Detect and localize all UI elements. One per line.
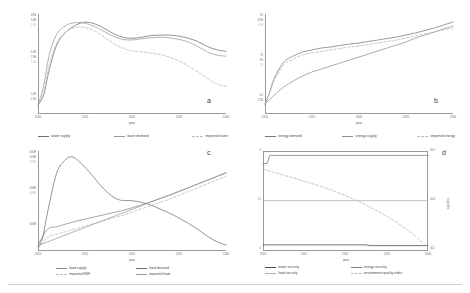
panel-c-xtick-2: 2020	[124, 253, 140, 256]
figure-canvas: 3.6B 3.0B 2.4B 2.4B 2.3B 1.1B 2.2B 2.1B …	[0, 0, 470, 293]
panel-b-legend-item-2[interactable]: imported energy	[417, 134, 455, 138]
panel-a: 3.6B 3.0B 2.4B 2.4B 2.3B 1.1B 2.2B 2.1B …	[8, 9, 235, 146]
panel-b-legend-label-2: imported energy	[430, 134, 455, 138]
panel-a-series-0	[38, 22, 226, 105]
line-swatch-icon	[265, 273, 276, 274]
panel-b: 90 8.5B 8.0B 70 60 50 5.0 2.5B 2010 2015…	[235, 9, 462, 146]
panel-d-xaxis-label: year	[328, 259, 364, 262]
panel-a-xtick-1: 2015	[77, 116, 93, 119]
panel-b-xtick-2: 2020	[351, 116, 367, 119]
panel-d: 5 2.5 0 40.5 40.4 40.2 eqindex 2010 2015…	[235, 146, 462, 284]
panel-d-legend: water security energy security food secu…	[265, 265, 455, 275]
panel-c-legend-item-0[interactable]: food supply	[56, 266, 136, 270]
panel-c-xtick-0: 2010	[30, 253, 46, 256]
panel-c-xtick-1: 2015	[77, 253, 93, 256]
line-swatch-icon	[38, 136, 49, 137]
panel-b-xtick-4: 2030	[445, 116, 461, 119]
panel-a-legend-label-2: imported water	[206, 134, 228, 138]
panel-d-legend-label-2: food security	[278, 271, 297, 275]
panel-d-xtick-2: 2020	[337, 253, 353, 256]
panel-d-legend-label-0: water security	[278, 265, 299, 269]
panel-a-legend-item-0[interactable]: water supply	[38, 134, 70, 138]
panel-d-xtick-3: 2025	[379, 253, 395, 256]
panel-d-legend-label-1: energy security	[364, 265, 387, 269]
line-swatch-icon	[56, 268, 67, 269]
panel-a-label: a	[207, 97, 211, 104]
dashed-line-swatch-icon	[192, 136, 203, 137]
panel-b-xtick-0: 2010	[257, 116, 273, 119]
panel-b-legend-item-0[interactable]: energy demand	[265, 134, 302, 138]
panel-a-legend-label-1: water demand	[127, 134, 149, 138]
panel-c-xaxis-label: year	[114, 259, 150, 262]
panel-a-legend-label-0: water supply	[51, 134, 70, 138]
panel-d-legend-item-3[interactable]: environment quality index	[351, 271, 456, 275]
panel-c-legend: food supply food demand imported NSF imp…	[56, 266, 216, 276]
panel-d-legend-item-0[interactable]: water security	[265, 265, 351, 269]
line-swatch-icon	[265, 136, 276, 137]
panel-b-legend-label-0: energy demand	[278, 134, 302, 138]
panel-d-legend-item-2[interactable]: food security	[265, 271, 351, 275]
panel-a-legend-item-1[interactable]: water demand	[114, 134, 149, 138]
panel-a-curves	[8, 9, 235, 146]
line-swatch-icon	[136, 274, 147, 275]
line-swatch-icon	[342, 136, 353, 137]
line-swatch-icon	[265, 267, 276, 268]
panel-b-series-1	[265, 26, 453, 104]
panel-d-xtick-1: 2015	[296, 253, 312, 256]
panel-c-legend-item-2[interactable]: imported NSF	[56, 272, 136, 276]
panel-c-series-3	[38, 173, 226, 245]
panel-a-legend-item-2[interactable]: imported water	[192, 134, 228, 138]
panel-c-curves	[8, 146, 235, 284]
dashed-line-swatch-icon	[417, 136, 428, 137]
line-swatch-icon	[351, 267, 362, 268]
panel-c-legend-label-0: food supply	[69, 266, 86, 270]
panel-b-series-2	[265, 28, 453, 104]
panel-c-series-2	[38, 176, 226, 248]
panel-a-xtick-3: 2025	[171, 116, 187, 119]
panel-b-legend-label-1: energy supply	[356, 134, 377, 138]
panel-c-legend-label-1: food demand	[149, 266, 169, 270]
line-swatch-icon	[136, 268, 147, 269]
panel-c-series-1	[38, 157, 226, 248]
panel-b-legend: energy demand energy supply imported ene…	[265, 134, 455, 138]
panel-a-xtick-2: 2020	[124, 116, 140, 119]
figure-bottom-rule	[8, 284, 462, 285]
panel-d-curves	[235, 146, 462, 284]
panel-d-series-3	[263, 169, 428, 247]
panel-c-legend-item-1[interactable]: food demand	[136, 266, 216, 270]
panel-d-label: d	[442, 149, 446, 156]
panel-a-series-1	[38, 22, 226, 105]
panel-b-xaxis-label: year	[341, 122, 377, 125]
panel-b-legend-item-1[interactable]: energy supply	[342, 134, 376, 138]
panel-c-xtick-3: 2025	[171, 253, 187, 256]
panel-c-legend-label-3: imported food	[149, 272, 170, 276]
dashed-line-swatch-icon	[56, 274, 67, 275]
panel-a-xaxis-label: year	[114, 122, 150, 125]
panel-b-xtick-1: 2015	[304, 116, 320, 119]
panel-c-legend-item-3[interactable]: imported food	[136, 272, 216, 276]
line-swatch-icon	[114, 136, 125, 137]
panel-d-legend-item-1[interactable]: energy security	[351, 265, 456, 269]
panel-d-series-0	[263, 245, 428, 246]
panel-d-xtick-0: 2010	[255, 253, 271, 256]
dashed-line-swatch-icon	[351, 273, 362, 274]
panel-a-xtick-4: 2030	[218, 116, 234, 119]
panel-c-label: c	[207, 149, 211, 156]
panel-d-legend-label-3: environment quality index	[364, 271, 402, 275]
panel-c-legend-label-2: imported NSF	[69, 272, 90, 276]
panel-c-xtick-4: 2030	[218, 253, 234, 256]
panel-a-xtick-0: 2010	[30, 116, 46, 119]
panel-b-xtick-3: 2025	[398, 116, 414, 119]
panel-d-series-1	[263, 155, 428, 163]
panel-a-series-2	[38, 27, 226, 106]
panel-a-legend: water supply water demand imported water	[38, 134, 228, 138]
panel-b-label: b	[434, 97, 438, 104]
panel-d-xtick-4: 2030	[420, 253, 436, 256]
panel-c: 600M 500M 515M 400M 640M 300M 2010 2015 …	[8, 146, 235, 284]
panel-b-curves	[235, 9, 462, 146]
panel-c-series-0	[38, 173, 226, 245]
